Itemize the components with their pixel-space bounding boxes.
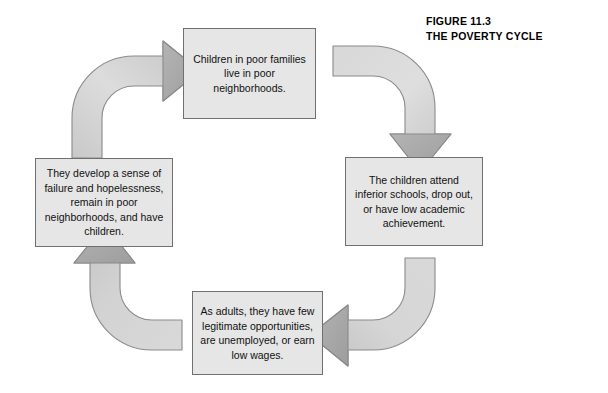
cycle-node-few-opportunities: As adults, they have few legitimate oppo… <box>192 291 323 375</box>
arrow-right-to-bottom <box>310 258 435 366</box>
cycle-node-sense-of-failure: They develop a sense of failure and hope… <box>35 158 173 247</box>
cycle-node-inferior-schools: The children attend inferior schools, dr… <box>345 157 483 246</box>
figure-number: FIGURE 11.3 <box>426 14 598 29</box>
arrow-bottom-left-to-top <box>72 41 200 158</box>
arrow-top-to-right <box>333 46 451 172</box>
figure-canvas: FIGURE 11.3 THE POVERTY CYCLE <box>0 0 608 393</box>
cycle-node-bottom-text: As adults, they have few legitimate oppo… <box>199 304 316 362</box>
cycle-node-right-text: The children attend inferior schools, dr… <box>352 173 476 231</box>
cycle-node-top-text: Children in poor families live in poor n… <box>190 52 309 96</box>
cycle-node-left-text: They develop a sense of failure and hope… <box>42 166 166 239</box>
figure-caption: FIGURE 11.3 THE POVERTY CYCLE <box>426 14 598 44</box>
figure-title: THE POVERTY CYCLE <box>426 29 598 44</box>
cycle-node-poor-neighborhoods: Children in poor families live in poor n… <box>183 28 316 119</box>
